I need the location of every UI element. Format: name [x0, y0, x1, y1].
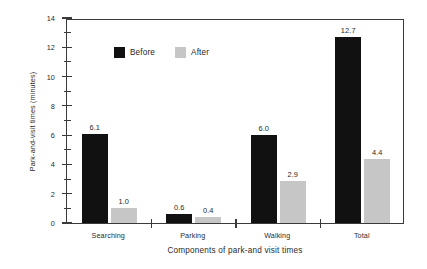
legend-entry-after: After	[175, 47, 209, 58]
bar-chart-figure: Park-and-visit times (minutes) 024681012…	[0, 0, 427, 269]
y-tick-minor	[64, 149, 71, 150]
x-category-label-parking: Parking	[180, 231, 205, 240]
y-tick-minor	[64, 120, 71, 121]
bar-searching-after: 1.0	[111, 208, 137, 223]
y-tick-major: 6	[62, 135, 72, 136]
y-tick-minor	[64, 61, 71, 62]
y-tick-label: 6	[51, 131, 55, 140]
bar-value-label: 1.0	[118, 197, 129, 206]
x-category-label-searching: Searching	[92, 231, 125, 240]
bar-walking-before: 6.0	[251, 135, 277, 223]
bar-searching-before: 6.1	[82, 134, 108, 223]
y-tick-minor	[64, 91, 71, 92]
bar-parking-after: 0.4	[195, 217, 221, 223]
bar-parking-before: 0.6	[166, 214, 192, 223]
legend-entry-before: Before	[114, 47, 155, 58]
bar-value-label: 0.4	[203, 206, 214, 215]
legend-label-after: After	[191, 48, 209, 57]
y-tick-minor	[64, 32, 71, 33]
x-separator-tick	[151, 219, 152, 228]
legend-swatch-before-icon	[114, 47, 125, 58]
y-tick-major: 12	[62, 47, 72, 48]
y-tick-label: 2	[51, 189, 55, 198]
y-tick-label: 14	[47, 14, 55, 23]
y-tick-label: 12	[47, 43, 55, 52]
x-axis-title: Components of park-and visit times	[66, 246, 404, 255]
bar-value-label: 12.7	[341, 26, 356, 35]
y-tick-major: 8	[62, 105, 72, 106]
y-axis-title: Park-and-visit times (minutes)	[26, 19, 40, 224]
legend-swatch-after-icon	[175, 47, 186, 58]
x-category-label-total: Total	[354, 231, 370, 240]
y-tick-minor	[64, 208, 71, 209]
bar-value-label: 6.0	[258, 124, 269, 133]
bar-total-after: 4.4	[364, 159, 390, 223]
bar-value-label: 4.4	[372, 148, 383, 157]
chart-legend: Before After	[114, 47, 209, 58]
bar-value-label: 2.9	[287, 170, 298, 179]
x-category-label-walking: Walking	[264, 231, 290, 240]
y-tick-label: 10	[47, 72, 55, 81]
y-tick-label: 4	[51, 160, 55, 169]
bar-value-label: 6.1	[89, 123, 100, 132]
bar-walking-after: 2.9	[280, 181, 306, 223]
bar-value-label: 0.6	[174, 203, 185, 212]
y-tick-minor	[64, 179, 71, 180]
x-separator-tick	[320, 219, 321, 228]
bar-total-before: 12.7	[335, 37, 361, 223]
y-tick-label: 0	[51, 219, 55, 228]
y-tick-major: 4	[62, 164, 72, 165]
legend-label-before: Before	[130, 48, 155, 57]
y-tick-major: 0	[62, 222, 72, 223]
y-tick-label: 8	[51, 101, 55, 110]
y-tick-major: 2	[62, 193, 72, 194]
y-tick-major: 14	[62, 17, 72, 18]
y-tick-major: 10	[62, 76, 72, 77]
x-separator-tick	[235, 219, 236, 228]
